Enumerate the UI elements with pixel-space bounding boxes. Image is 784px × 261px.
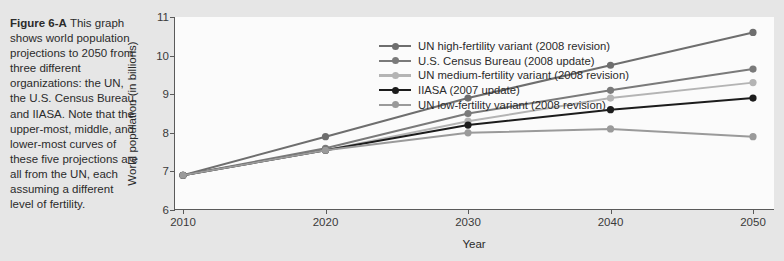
y-tick-label: 8: [163, 127, 169, 139]
legend-swatch-icon: [379, 69, 411, 81]
x-tick-mark: [611, 209, 612, 214]
legend-item[interactable]: IIASA (2007 update): [379, 83, 629, 98]
y-tick-mark: [170, 56, 175, 57]
y-axis-title: World population (in billions): [126, 17, 142, 210]
x-tick-mark: [468, 209, 469, 214]
x-tick-mark: [326, 209, 327, 214]
y-tick-label: 10: [156, 50, 169, 62]
x-axis-title: Year: [174, 238, 774, 250]
legend-label: IIASA (2007 update): [418, 84, 520, 96]
legend-swatch-icon: [379, 99, 411, 111]
plot-area: 67891011 20102020203020402050 UN high-fe…: [174, 17, 774, 210]
legend-dot: [392, 87, 399, 94]
data-point: [322, 133, 329, 140]
legend-swatch-icon: [379, 55, 411, 67]
y-tick-label: 11: [157, 11, 169, 23]
figure-caption-text: This graph shows world population projec…: [10, 17, 138, 210]
x-tick-label: 2040: [598, 216, 624, 228]
y-tick-mark: [170, 94, 175, 95]
y-tick-mark: [170, 133, 175, 134]
y-tick-mark: [170, 210, 175, 211]
data-point: [179, 172, 186, 179]
x-tick-mark: [183, 209, 184, 214]
x-tick-mark: [753, 209, 754, 214]
y-tick-mark: [170, 171, 175, 172]
legend-item[interactable]: UN medium-fertility variant (2008 revisi…: [379, 68, 629, 83]
legend-swatch-icon: [379, 84, 411, 96]
figure-caption-label: Figure 6-A: [10, 17, 67, 29]
legend-dot: [392, 43, 399, 50]
legend-item[interactable]: UN low-fertility variant (2008 revision): [379, 97, 629, 112]
data-point: [464, 129, 471, 136]
data-point: [322, 147, 329, 154]
data-point: [749, 94, 756, 101]
figure-caption: Figure 6-A This graph shows world popula…: [10, 16, 138, 212]
legend-dot: [392, 57, 399, 64]
data-point: [749, 133, 756, 140]
data-point: [749, 29, 756, 36]
legend-item[interactable]: U.S. Census Bureau (2008 update): [379, 54, 629, 69]
legend-item[interactable]: UN high-fertility variant (2008 revision…: [379, 39, 629, 54]
legend-dot: [392, 72, 399, 79]
y-tick-label: 6: [163, 204, 169, 216]
y-tick-label: 7: [163, 165, 169, 177]
x-tick-label: 2050: [740, 216, 766, 228]
data-point: [607, 125, 614, 132]
x-tick-label: 2010: [170, 216, 196, 228]
data-point: [464, 121, 471, 128]
legend-label: UN medium-fertility variant (2008 revisi…: [418, 69, 629, 81]
data-point: [749, 79, 756, 86]
legend-label: UN high-fertility variant (2008 revision…: [418, 40, 610, 52]
y-tick-label: 9: [163, 88, 169, 100]
chart-legend: UN high-fertility variant (2008 revision…: [379, 39, 629, 112]
legend-label: UN low-fertility variant (2008 revision): [418, 99, 606, 111]
x-tick-label: 2030: [455, 216, 481, 228]
y-tick-mark: [170, 17, 175, 18]
x-tick-label: 2020: [313, 216, 339, 228]
legend-dot: [392, 101, 399, 108]
figure-container: Figure 6-A This graph shows world popula…: [0, 0, 784, 261]
data-point: [749, 66, 756, 73]
legend-swatch-icon: [379, 40, 411, 52]
legend-label: U.S. Census Bureau (2008 update): [418, 55, 594, 67]
